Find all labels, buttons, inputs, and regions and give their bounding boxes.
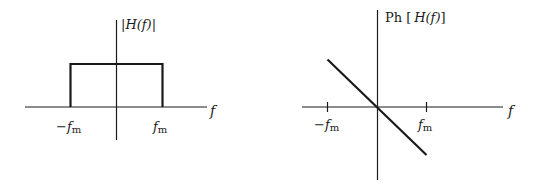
phase-plot: Ph[H(f)] f −fm fm <box>302 10 516 180</box>
magnitude-y-label: |H(f)| <box>121 17 156 32</box>
magnitude-tick-pos-fm: fm <box>152 119 168 135</box>
figure-canvas: |H(f)| f −fm fm Ph[H(f)] f −fm fm <box>0 0 545 185</box>
magnitude-x-label: f <box>209 103 218 119</box>
magnitude-plot: |H(f)| f −fm fm <box>25 17 218 140</box>
phase-x-label: f <box>507 103 516 119</box>
phase-tick-neg-fm: −fm <box>314 117 340 133</box>
phase-tick-pos-fm: fm <box>417 117 433 133</box>
phase-y-label: Ph[H(f)] <box>385 10 446 25</box>
magnitude-tick-neg-fm: −fm <box>56 119 82 135</box>
